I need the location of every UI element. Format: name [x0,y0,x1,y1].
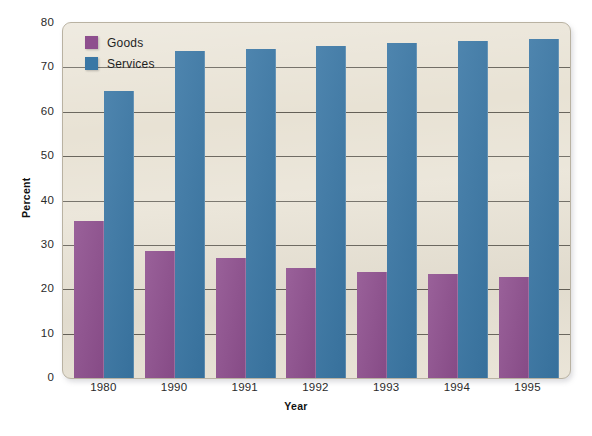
bar-services-1995 [529,39,559,378]
y-tick-60: 60 [41,105,54,117]
x-axis: 1980 1990 1991 1992 1993 1994 1995 [62,381,569,399]
y-tick-50: 50 [41,149,54,161]
bar-group-1993 [357,23,417,378]
bar-services-1994 [458,41,488,378]
bar-group-1994 [428,23,488,378]
legend-swatch-goods-icon [85,36,98,49]
bar-goods-1995 [499,277,529,378]
bar-group-1995 [499,23,559,378]
bar-group-1990 [145,23,205,378]
bars-layer [63,23,570,378]
x-tick-1995: 1995 [498,381,558,399]
x-tick-1994: 1994 [427,381,487,399]
bar-services-1993 [387,43,417,378]
x-tick-1991: 1991 [215,381,275,399]
y-tick-0: 0 [47,371,54,383]
bar-services-1980 [104,91,134,378]
bar-services-1990 [175,51,205,378]
legend-label-goods: Goods [107,36,143,50]
y-tick-20: 20 [41,282,54,294]
legend-swatch-services-icon [85,57,98,70]
bar-group-1980 [74,23,134,378]
legend-item-services: Services [85,54,155,73]
bar-group-1992 [286,23,346,378]
bar-group-1991 [216,23,276,378]
x-axis-title: Year [0,400,592,412]
x-tick-1990: 1990 [144,381,204,399]
bar-goods-1990 [145,251,175,378]
legend-label-services: Services [107,57,155,71]
bar-goods-1992 [286,268,316,378]
y-tick-10: 10 [41,327,54,339]
bar-goods-1980 [74,221,104,378]
y-axis: Percent 80 70 60 50 40 30 20 10 0 [26,22,58,377]
legend-item-goods: Goods [85,33,155,52]
y-tick-70: 70 [41,60,54,72]
plot-area: Goods Services [62,22,571,379]
x-tick-1992: 1992 [285,381,345,399]
y-axis-title: Percent [20,177,32,218]
chart-figure: Percent 80 70 60 50 40 30 20 10 0 Goods … [0,0,592,436]
x-tick-1993: 1993 [356,381,416,399]
bar-goods-1994 [428,274,458,378]
y-tick-80: 80 [41,16,54,28]
bar-goods-1991 [216,258,246,378]
bar-services-1991 [246,49,276,378]
bar-services-1992 [316,46,346,378]
y-tick-30: 30 [41,238,54,250]
bar-goods-1993 [357,272,387,379]
legend: Goods Services [85,33,155,75]
y-tick-40: 40 [41,194,54,206]
x-tick-1980: 1980 [73,381,133,399]
